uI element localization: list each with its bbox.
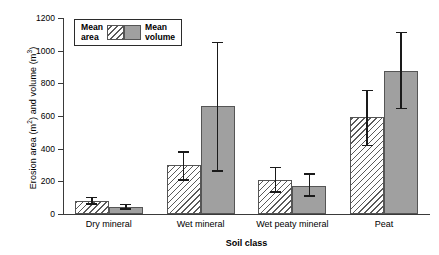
legend-label-mean-area-line1: Mean	[81, 22, 103, 32]
y-axis-tick: 1200	[0, 18, 63, 19]
legend-label-mean-area: Meanarea	[81, 23, 103, 42]
error-bar-cap-lower	[86, 203, 97, 205]
error-bar-cap-lower	[362, 145, 373, 147]
y-axis-line	[63, 18, 64, 215]
y-axis-tick: 1000	[0, 51, 63, 52]
x-axis-category-label: Wet peaty mineral	[247, 219, 339, 229]
error-bar-cap-upper	[396, 32, 407, 34]
error-bar	[350, 90, 384, 146]
error-bar	[167, 151, 201, 180]
legend-label-mean-volume-line2: volume	[145, 32, 175, 42]
x-axis-title: Soil class	[63, 238, 430, 248]
error-bar-stem	[309, 173, 310, 197]
y-axis-tick-mark	[58, 18, 63, 19]
x-axis-category-label: Dry mineral	[63, 219, 155, 229]
erosion-bar-chart: Erosion area (m2) and volume (m3) 020040…	[0, 0, 439, 255]
error-bar	[75, 197, 109, 205]
error-bar-cap-lower	[120, 208, 131, 210]
error-bar-cap-upper	[178, 151, 189, 153]
error-bar	[384, 32, 418, 110]
y-axis-tick-mark	[58, 149, 63, 150]
y-axis-tick: 200	[0, 181, 63, 182]
x-axis-category-label: Wet mineral	[155, 219, 247, 229]
legend-swatch-mean-area	[107, 25, 124, 40]
error-bar	[292, 173, 326, 197]
y-axis-tick-label: 0	[25, 210, 55, 219]
y-axis-title-sup-area: 2	[26, 120, 33, 124]
error-bar	[201, 42, 235, 172]
y-axis-tick: 800	[0, 83, 63, 84]
error-bar	[258, 167, 292, 193]
legend-swatch-mean-volume	[124, 25, 141, 40]
y-axis-tick: 600	[0, 116, 63, 117]
y-axis-tick-label: 800	[25, 79, 55, 88]
error-bar-cap-upper	[120, 204, 131, 206]
error-bar-cap-lower	[212, 170, 223, 172]
error-bar-cap-lower	[304, 195, 315, 197]
error-bar-cap-lower	[396, 108, 407, 110]
legend-label-mean-volume-line1: Mean	[145, 22, 167, 32]
error-bar-cap-upper	[212, 42, 223, 44]
error-bar-cap-upper	[362, 90, 373, 92]
legend-label-mean-volume: Meanvolume	[145, 23, 175, 42]
y-axis-tick-label: 400	[25, 145, 55, 154]
error-bar-stem	[217, 42, 218, 172]
y-axis-tick-mark	[58, 181, 63, 182]
legend-swatches	[107, 25, 141, 40]
error-bar-cap-upper	[304, 173, 315, 175]
y-axis-tick-mark	[58, 116, 63, 117]
y-axis-tick-label: 600	[25, 112, 55, 121]
y-axis-tick: 400	[0, 149, 63, 150]
error-bar	[109, 204, 143, 210]
y-axis-tick-label: 200	[25, 177, 55, 186]
y-axis-tick: 0	[0, 214, 63, 215]
chart-legend: Meanarea Meanvolume	[74, 19, 182, 46]
y-axis-tick-mark	[58, 83, 63, 84]
error-bar-stem	[183, 151, 184, 180]
error-bar-stem	[366, 90, 367, 146]
x-axis-category-label: Peat	[338, 219, 430, 229]
y-axis-tick-label: 1000	[25, 47, 55, 56]
error-bar-cap-lower	[270, 191, 281, 193]
error-bar-cap-lower	[178, 179, 189, 181]
x-axis-line	[63, 214, 430, 215]
error-bar-stem	[400, 32, 401, 110]
error-bar-stem	[275, 167, 276, 193]
y-axis-tick-mark	[58, 51, 63, 52]
y-axis-tick-label: 1200	[25, 14, 55, 23]
error-bar-cap-upper	[86, 197, 97, 199]
error-bar-cap-upper	[270, 167, 281, 169]
legend-label-mean-area-line2: area	[81, 32, 99, 42]
